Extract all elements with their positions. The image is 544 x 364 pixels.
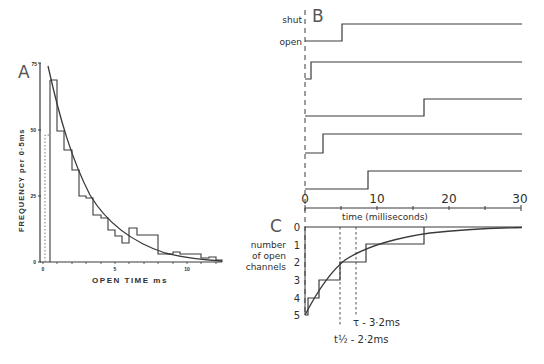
panel-a-x-label: OPEN TIME ms (92, 276, 168, 285)
time-tick-10: 10 (369, 192, 384, 206)
time-tick-0: 0 (301, 192, 309, 206)
panel-a-dotted-bin (45, 135, 50, 262)
time-tick-20: 20 (441, 192, 456, 206)
panel-a-ytick-0: 0 (33, 259, 36, 265)
panel-a: A 0 25 50 75 FREQUENCY per 0·5ms 0 5 10 … (17, 61, 222, 285)
panel-c: C number of open channels 0 1 2 3 4 5 τ … (246, 216, 522, 345)
time-axis-label: time (milliseconds) (342, 212, 428, 222)
count-tick-0: 0 (294, 222, 300, 233)
panel-a-histogram (50, 80, 222, 262)
panel-a-xtick-5: 5 (114, 266, 117, 272)
open-channels-staircase (305, 227, 424, 315)
panel-a-exponential-fit (48, 66, 222, 261)
figure-canvas: A 0 25 50 75 FREQUENCY per 0·5ms 0 5 10 … (0, 0, 544, 364)
count-tick-5: 5 (294, 310, 300, 321)
panel-c-label: C (270, 216, 282, 236)
state-label-open: open (280, 37, 302, 47)
count-tick-4: 4 (294, 293, 300, 304)
panel-c-exponential-fit (305, 228, 522, 316)
count-tick-3: 3 (294, 275, 300, 286)
half-time-annotation: t½ - 2·2ms (334, 334, 388, 345)
time-tick-30: 30 (512, 192, 527, 206)
count-tick-2: 2 (294, 257, 300, 268)
panel-c-ylabel-line-1: number (251, 240, 286, 250)
panel-a-xtick-10: 10 (184, 266, 190, 272)
channel-trace-1 (305, 24, 522, 41)
count-tick-1: 1 (294, 240, 300, 251)
panel-a-ytick-25: 25 (30, 193, 36, 199)
panel-c-ylabel-line-3: channels (246, 262, 287, 272)
channel-trace-5 (305, 171, 522, 189)
channel-trace-2 (305, 62, 522, 79)
panel-b-label: B (312, 6, 324, 26)
tau-annotation: τ - 3·2ms (353, 317, 400, 328)
panel-c-ylabel-line-2: of open (252, 251, 286, 261)
panel-b: B shut open 0 10 20 30 time (millisecond… (280, 6, 528, 316)
panel-a-xtick-0: 0 (42, 266, 45, 272)
panel-a-ytick-50: 50 (30, 127, 36, 133)
channel-trace-4 (305, 134, 522, 153)
panel-a-ytick-75: 75 (31, 61, 37, 67)
panel-a-y-label: FREQUENCY per 0·5ms (17, 129, 26, 232)
state-label-shut: shut (282, 15, 302, 25)
channel-trace-3 (305, 99, 522, 116)
panel-a-label: A (18, 62, 30, 82)
